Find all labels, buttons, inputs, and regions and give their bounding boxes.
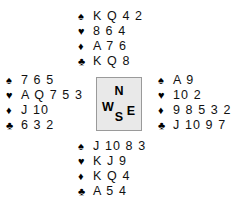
diamond-icon: ♦ — [78, 169, 89, 184]
hand-north: ♠ K Q 4 2 ♥ 8 6 4 ♦ A 7 6 ♣ K Q 8 — [78, 9, 143, 69]
bridge-deal-diagram: ♠ K Q 4 2 ♥ 8 6 4 ♦ A 7 6 ♣ K Q 8 ♠ 7 6 … — [0, 0, 235, 208]
east-diamonds-row: ♦ 9 8 5 3 2 — [158, 103, 232, 118]
compass-box: N W E S — [96, 77, 142, 131]
hand-south: ♠ J 10 8 3 ♥ K J 9 ♦ K Q 4 ♣ A 5 4 — [78, 139, 146, 199]
south-clubs-cards: A 5 4 — [89, 184, 127, 199]
north-hearts-row: ♥ 8 6 4 — [78, 24, 143, 39]
east-clubs-cards: J 10 9 7 — [169, 118, 226, 133]
diamond-icon: ♦ — [78, 39, 89, 54]
south-hearts-cards: K J 9 — [89, 154, 127, 169]
east-clubs-row: ♣ J 10 9 7 — [158, 118, 232, 133]
west-clubs-row: ♣ 6 3 2 — [6, 118, 83, 133]
hand-west: ♠ 7 6 5 ♥ A Q 7 5 3 ♦ J 10 ♣ 6 3 2 — [6, 73, 83, 133]
club-icon: ♣ — [6, 118, 17, 133]
east-spades-row: ♠ A 9 — [158, 73, 232, 88]
south-spades-cards: J 10 8 3 — [89, 139, 146, 154]
east-spades-cards: A 9 — [169, 73, 194, 88]
west-clubs-cards: 6 3 2 — [17, 118, 54, 133]
spade-icon: ♠ — [158, 73, 169, 88]
heart-icon: ♥ — [6, 88, 17, 103]
diamond-icon: ♦ — [6, 103, 17, 118]
heart-icon: ♥ — [78, 154, 89, 169]
west-diamonds-row: ♦ J 10 — [6, 103, 83, 118]
spade-icon: ♠ — [78, 9, 89, 24]
west-hearts-row: ♥ A Q 7 5 3 — [6, 88, 83, 103]
east-hearts-row: ♥ 10 2 — [158, 88, 232, 103]
west-spades-row: ♠ 7 6 5 — [6, 73, 83, 88]
club-icon: ♣ — [78, 184, 89, 199]
east-diamonds-cards: 9 8 5 3 2 — [169, 103, 232, 118]
south-hearts-row: ♥ K J 9 — [78, 154, 146, 169]
diamond-icon: ♦ — [158, 103, 169, 118]
south-clubs-row: ♣ A 5 4 — [78, 184, 146, 199]
compass-label-north: N — [97, 85, 141, 98]
west-spades-cards: 7 6 5 — [17, 73, 54, 88]
compass-label-south: S — [97, 111, 141, 124]
club-icon: ♣ — [78, 54, 89, 69]
north-hearts-cards: 8 6 4 — [89, 24, 126, 39]
spade-icon: ♠ — [6, 73, 17, 88]
club-icon: ♣ — [158, 118, 169, 133]
north-clubs-row: ♣ K Q 8 — [78, 54, 143, 69]
south-spades-row: ♠ J 10 8 3 — [78, 139, 146, 154]
west-hearts-cards: A Q 7 5 3 — [17, 88, 83, 103]
heart-icon: ♥ — [78, 24, 89, 39]
south-diamonds-cards: K Q 4 — [89, 169, 130, 184]
heart-icon: ♥ — [158, 88, 169, 103]
north-clubs-cards: K Q 8 — [89, 54, 130, 69]
south-diamonds-row: ♦ K Q 4 — [78, 169, 146, 184]
north-diamonds-cards: A 7 6 — [89, 39, 127, 54]
west-diamonds-cards: J 10 — [17, 103, 49, 118]
north-diamonds-row: ♦ A 7 6 — [78, 39, 143, 54]
east-hearts-cards: 10 2 — [169, 88, 202, 103]
hand-east: ♠ A 9 ♥ 10 2 ♦ 9 8 5 3 2 ♣ J 10 9 7 — [158, 73, 232, 133]
north-spades-cards: K Q 4 2 — [89, 9, 143, 24]
north-spades-row: ♠ K Q 4 2 — [78, 9, 143, 24]
spade-icon: ♠ — [78, 139, 89, 154]
